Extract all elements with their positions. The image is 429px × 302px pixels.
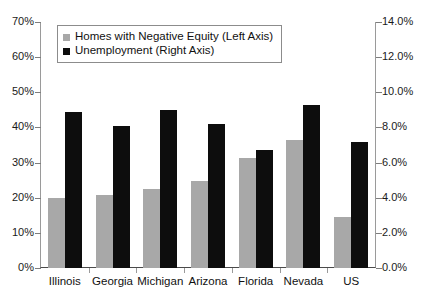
right-axis-tick-label: 2.0% xyxy=(382,227,407,238)
right-axis-tick-label: 12.0% xyxy=(382,51,413,62)
category-label: Illinois xyxy=(41,276,89,288)
left-axis-tick-mark xyxy=(35,198,41,199)
category-label: US xyxy=(327,276,375,288)
right-axis-tick-mark xyxy=(376,163,382,164)
left-axis-tick-label: 0% xyxy=(18,262,34,273)
bar-negative-equity xyxy=(48,198,65,268)
right-axis-tick-label: 14.0% xyxy=(382,16,413,27)
left-axis-tick-mark xyxy=(35,233,41,234)
right-axis-tick-mark xyxy=(376,57,382,58)
right-axis-tick-label: 6.0% xyxy=(382,157,407,168)
left-axis-tick-label: 20% xyxy=(12,192,34,203)
category-label: Nevada xyxy=(280,276,328,288)
left-axis-tick-mark xyxy=(35,163,41,164)
category-separator-tick xyxy=(327,268,328,273)
bar-unemployment xyxy=(256,150,273,268)
legend-item-unemployment: Unemployment (Right Axis) xyxy=(63,44,273,58)
category-label: Michigan xyxy=(136,276,184,288)
dual-axis-bar-chart: 0%10%20%30%40%50%60%70% 0.0%2.0%4.0%6.0%… xyxy=(0,0,429,302)
bar-negative-equity xyxy=(334,217,351,268)
bar-unemployment xyxy=(303,105,320,268)
legend-swatch-equity-icon xyxy=(63,34,70,41)
right-axis-tick-label: 8.0% xyxy=(382,121,407,132)
bar-negative-equity xyxy=(96,195,113,268)
left-axis-tick-mark xyxy=(35,92,41,93)
left-axis-tick-mark xyxy=(35,127,41,128)
bar-unemployment xyxy=(208,124,225,268)
right-axis-tick-mark xyxy=(376,92,382,93)
bar-negative-equity xyxy=(143,189,160,268)
right-axis: 0.0%2.0%4.0%6.0%8.0%10.0%12.0%14.0% xyxy=(382,0,429,302)
right-axis-tick-mark xyxy=(376,268,382,269)
left-axis-tick-mark xyxy=(35,268,41,269)
left-axis-tick-mark xyxy=(35,57,41,58)
bar-unemployment xyxy=(113,126,130,268)
right-axis-tick-mark xyxy=(376,233,382,234)
left-axis-tick-label: 70% xyxy=(12,16,34,27)
bar-group xyxy=(286,22,320,268)
category-label: Arizona xyxy=(184,276,232,288)
left-axis-tick-mark xyxy=(35,22,41,23)
bar-negative-equity xyxy=(286,140,303,268)
bar-unemployment xyxy=(65,112,82,268)
left-axis-tick-label: 50% xyxy=(12,86,34,97)
right-axis-tick-mark xyxy=(376,127,382,128)
left-axis-tick-label: 40% xyxy=(12,121,34,132)
category-label: Florida xyxy=(232,276,280,288)
category-separator-tick xyxy=(184,268,185,273)
right-axis-tick-label: 0.0% xyxy=(382,262,407,273)
legend-label-unemployment: Unemployment (Right Axis) xyxy=(75,45,214,57)
category-label: Georgia xyxy=(89,276,137,288)
bar-unemployment xyxy=(351,142,368,269)
chart-legend: Homes with Negative Equity (Left Axis) U… xyxy=(57,25,282,63)
right-axis-tick-label: 4.0% xyxy=(382,192,407,203)
left-axis-tick-label: 30% xyxy=(12,157,34,168)
bar-negative-equity xyxy=(191,181,208,268)
legend-label-equity: Homes with Negative Equity (Left Axis) xyxy=(75,31,273,43)
right-axis-tick-label: 10.0% xyxy=(382,86,413,97)
legend-item-equity: Homes with Negative Equity (Left Axis) xyxy=(63,30,273,44)
bar-negative-equity xyxy=(239,158,256,268)
left-axis: 0%10%20%30%40%50%60%70% xyxy=(0,0,34,302)
legend-swatch-unemployment-icon xyxy=(63,48,70,55)
category-separator-tick xyxy=(280,268,281,273)
category-separator-tick xyxy=(136,268,137,273)
left-axis-tick-label: 60% xyxy=(12,51,34,62)
right-axis-tick-mark xyxy=(376,198,382,199)
right-axis-tick-mark xyxy=(376,22,382,23)
bar-unemployment xyxy=(160,110,177,268)
left-axis-tick-label: 10% xyxy=(12,227,34,238)
category-separator-tick xyxy=(232,268,233,273)
category-separator-tick xyxy=(89,268,90,273)
bar-group xyxy=(334,22,368,268)
